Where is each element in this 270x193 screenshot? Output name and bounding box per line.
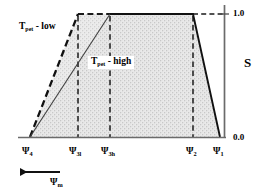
soil-water-stress-figure: Tpet - low Tpet - high 1.0 0.0 S Ψ4 Ψ3l …: [0, 0, 270, 193]
annotation-tpet-low-suffix: - low: [33, 21, 55, 31]
annotation-tpet-high-sub: pet: [97, 61, 105, 67]
annotation-tpet-high-suffix: - high: [105, 56, 131, 66]
x-tick-label-psi4: Ψ4: [22, 147, 33, 157]
x-tick-psi4-sub: 4: [29, 150, 32, 157]
x-tick-psi1-sub: 1: [220, 150, 223, 157]
x-tick-psi2-sub: 2: [193, 150, 196, 157]
shaded-stress-region: [30, 14, 220, 137]
x-axis-title: Ψm: [50, 178, 63, 188]
x-tick-label-psi1: Ψ1: [213, 147, 224, 157]
x-tick-label-psi3h: Ψ3h: [101, 147, 115, 157]
annotation-tpet-high: Tpet - high: [88, 56, 134, 69]
x-tick-label-psi2: Ψ2: [186, 147, 197, 157]
y-tick-label-top: 1.0: [233, 9, 244, 18]
x-axis-title-sub: m: [57, 181, 62, 188]
x-tick-label-psi3l: Ψ3l: [69, 147, 81, 157]
y-tick-label-bottom: 0.0: [233, 133, 244, 142]
annotation-tpet-low-sub: pet: [25, 26, 33, 32]
annotation-tpet-low: Tpet - low: [19, 22, 56, 32]
x-tick-psi3h-sub: 3h: [108, 150, 115, 157]
x-tick-psi3l-sub: 3l: [76, 150, 81, 157]
y-axis-title: S: [244, 56, 251, 69]
